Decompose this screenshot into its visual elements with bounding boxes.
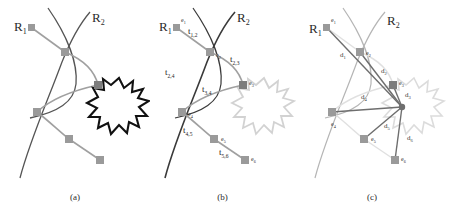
edge-label-d2: d2 (381, 67, 388, 76)
node-e3 (389, 81, 397, 89)
edge-label-t45: t4,5 (183, 125, 193, 137)
caption-c: (c) (295, 192, 449, 202)
node-e3 (94, 81, 102, 89)
node-e1 (28, 24, 35, 31)
node-label-e2: e2 (366, 50, 371, 58)
node-e5 (210, 135, 218, 143)
node-label-e2: e2 (216, 52, 221, 60)
node-e6 (96, 156, 104, 164)
panel-b: e1 e2 e3 e4 e5 e6 t1,2 t2,3 t2,4 t3,4 t4… (145, 0, 300, 208)
caption-a: (a) (0, 192, 150, 202)
edge-label-d4: d4 (361, 93, 368, 102)
path-e3-e4 (37, 85, 98, 112)
panel-c-canvas: e1 e2 e3 e4 e5 e6 d1 d2 d3 d4 d5 d6 R1 R… (295, 0, 449, 208)
node-e4 (328, 108, 336, 116)
node-e1 (173, 24, 180, 31)
path-e3-e4 (182, 85, 243, 112)
label-r2: R2 (92, 10, 105, 27)
node-label-e6: e6 (251, 156, 256, 164)
label-r2: R2 (387, 13, 400, 30)
edge-label-d1: d1 (340, 51, 347, 60)
path-e1-e2-faint (327, 28, 360, 52)
path-e2-e3 (65, 52, 98, 85)
panel-c: e1 e2 e3 e4 e5 e6 d1 d2 d3 d4 d5 d6 R1 R… (295, 0, 449, 208)
target-point (399, 104, 405, 110)
panel-a: R1 R2 (a) (0, 0, 150, 208)
curve-r2 (20, 12, 90, 178)
node-label-e5: e5 (371, 136, 376, 144)
caption-b: (b) (145, 192, 300, 202)
figure-container: R1 R2 (a) e1 e2 e3 e (0, 0, 449, 208)
edge-label-d5: d5 (384, 122, 391, 131)
node-e2 (356, 48, 364, 56)
panel-a-canvas: R1 R2 (0, 0, 150, 208)
node-e1 (323, 24, 330, 31)
node-e6 (391, 156, 399, 164)
label-r1: R1 (14, 19, 27, 36)
node-e2 (61, 48, 69, 56)
edge-label-d6: d6 (407, 134, 414, 143)
edge-label-t34: t3,4 (202, 84, 212, 96)
path-e1-e2 (32, 28, 65, 52)
edge-label-t23: t2,3 (230, 54, 240, 66)
node-e2 (206, 48, 214, 56)
label-r1: R1 (309, 21, 322, 38)
path-e2-e3 (210, 52, 243, 85)
edge-label-t12: t1,2 (188, 26, 198, 38)
path-e5-e6 (69, 139, 100, 160)
node-e5 (360, 135, 368, 143)
node-e4 (178, 108, 186, 116)
label-r1: R1 (159, 19, 172, 36)
node-label-e1: e1 (181, 17, 186, 25)
node-e3 (239, 81, 247, 89)
node-e5 (65, 135, 73, 143)
label-r2: R2 (237, 10, 250, 27)
distance-line-d1 (327, 28, 402, 107)
node-label-e5: e5 (221, 136, 226, 144)
panel-b-canvas: e1 e2 e3 e4 e5 e6 t1,2 t2,3 t2,4 t3,4 t4… (145, 0, 300, 208)
path-e5-e6-faint (364, 139, 395, 160)
edge-label-t24: t2,4 (165, 67, 175, 79)
curve-r2 (315, 12, 385, 178)
node-e6 (241, 156, 249, 164)
path-e4-e5-faint (332, 112, 364, 139)
path-e4-e5 (37, 112, 69, 139)
node-label-e6: e6 (401, 156, 406, 164)
node-label-e1: e1 (331, 17, 336, 25)
node-e4 (33, 108, 41, 116)
